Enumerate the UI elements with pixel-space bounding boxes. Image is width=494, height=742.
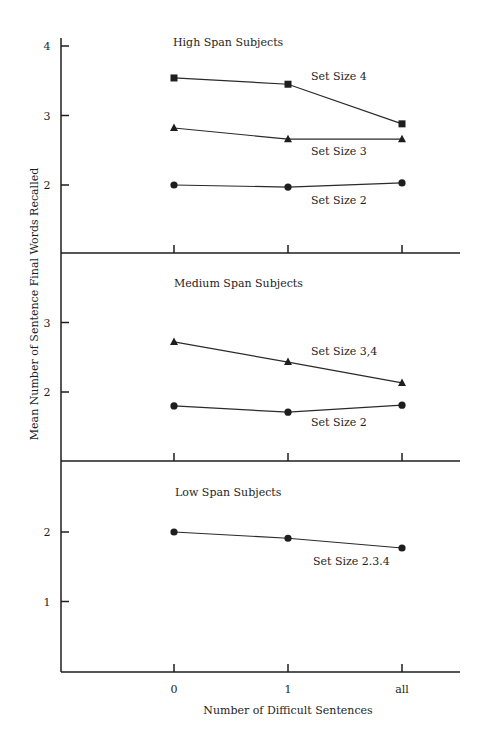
series-label: Set Size 3,4 xyxy=(311,345,377,358)
panel-title: Low Span Subjects xyxy=(175,486,282,499)
x-tick-label: all xyxy=(395,683,409,696)
labels: Mean Number of Sentence Final Words Reca… xyxy=(28,36,409,717)
circle-marker xyxy=(284,535,291,542)
panel-title: Medium Span Subjects xyxy=(174,277,303,290)
series-label: Set Size 2 xyxy=(311,416,367,429)
circle-marker xyxy=(398,402,405,409)
y-axis-label: Mean Number of Sentence Final Words Reca… xyxy=(28,168,41,440)
square-marker xyxy=(171,74,178,81)
circle-marker xyxy=(170,528,177,535)
axes xyxy=(61,38,460,672)
square-marker xyxy=(399,120,406,127)
y-tick-label: 2 xyxy=(44,526,51,539)
series-label: Set Size 2 xyxy=(311,194,367,207)
circle-marker xyxy=(284,409,291,416)
triangle-marker xyxy=(398,135,406,143)
circle-marker xyxy=(398,179,405,186)
circle-marker xyxy=(398,544,405,551)
y-tick-label: 2 xyxy=(44,386,51,399)
y-tick-label: 3 xyxy=(44,317,51,330)
x-tick-label: 0 xyxy=(171,683,178,696)
triangle-marker xyxy=(170,124,178,131)
x-tick-label: 1 xyxy=(285,683,292,696)
series-label: Set Size 4 xyxy=(311,70,367,83)
chart-figure: Mean Number of Sentence Final Words Reca… xyxy=(0,0,494,742)
y-tick-label: 2 xyxy=(44,179,51,192)
series-label: Set Size 2.3.4 xyxy=(313,555,390,568)
circle-marker xyxy=(170,181,177,188)
y-tick-label: 3 xyxy=(44,110,51,123)
x-axis-label: Number of Difficult Sentences xyxy=(203,704,373,717)
circle-marker xyxy=(284,183,291,190)
y-tick-label: 4 xyxy=(44,40,51,53)
square-marker xyxy=(285,81,292,88)
panel-title: High Span Subjects xyxy=(173,36,284,49)
circle-marker xyxy=(170,402,177,409)
triangle-marker xyxy=(170,337,178,345)
series xyxy=(170,74,406,551)
y-tick-label: 1 xyxy=(44,596,51,609)
series-label: Set Size 3 xyxy=(311,145,367,158)
